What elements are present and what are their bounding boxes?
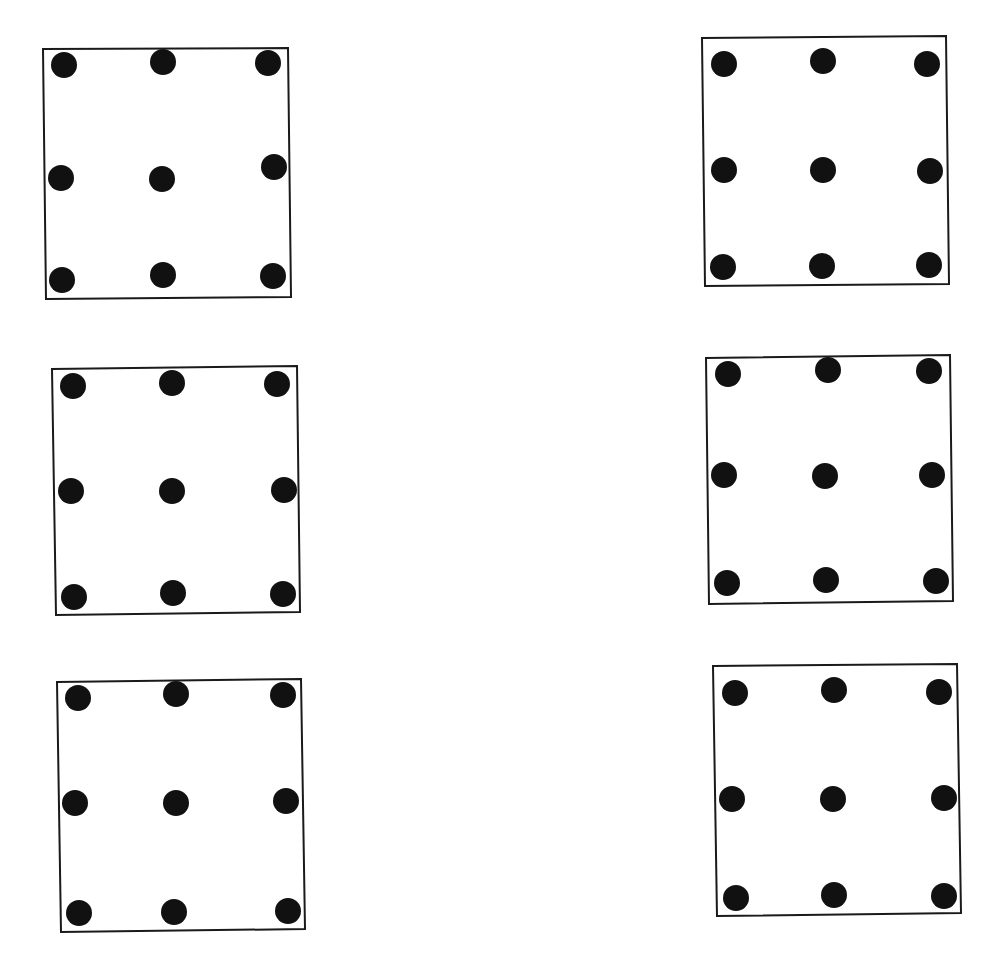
dot-2-2 — [820, 786, 846, 812]
dot-1-2 — [821, 677, 847, 703]
dot-1-2 — [810, 48, 836, 74]
dot-1-2 — [163, 681, 189, 707]
dot-1-2 — [815, 357, 841, 383]
dot-3-2 — [813, 567, 839, 593]
dot-1-3 — [926, 679, 952, 705]
dot-2-1 — [62, 790, 88, 816]
dot-1-3 — [270, 682, 296, 708]
dot-2-3 — [917, 158, 943, 184]
dot-3-1 — [49, 267, 75, 293]
dot-3-3 — [931, 883, 957, 909]
dot-2-3 — [931, 785, 957, 811]
dot-2-2 — [810, 157, 836, 183]
dot-2-1 — [711, 462, 737, 488]
dot-3-3 — [275, 898, 301, 924]
dot-panel-5 — [57, 679, 305, 932]
dot-1-3 — [264, 371, 290, 397]
dot-panel-4 — [706, 355, 953, 604]
dot-1-1 — [51, 52, 77, 78]
dot-1-2 — [150, 49, 176, 75]
dot-1-3 — [916, 358, 942, 384]
dot-3-1 — [66, 900, 92, 926]
dot-3-1 — [723, 885, 749, 911]
dot-1-1 — [60, 373, 86, 399]
dot-2-3 — [273, 788, 299, 814]
dot-3-1 — [61, 584, 87, 610]
dot-3-2 — [809, 253, 835, 279]
dot-3-2 — [161, 899, 187, 925]
dot-2-2 — [159, 478, 185, 504]
dot-2-1 — [711, 157, 737, 183]
dot-2-2 — [163, 790, 189, 816]
dot-2-2 — [812, 463, 838, 489]
dot-1-1 — [722, 680, 748, 706]
dot-panel-3 — [52, 366, 300, 615]
dot-3-1 — [710, 254, 736, 280]
dot-1-1 — [715, 361, 741, 387]
dot-3-3 — [923, 568, 949, 594]
dot-3-3 — [270, 581, 296, 607]
dot-3-3 — [916, 252, 942, 278]
dot-1-3 — [914, 51, 940, 77]
dot-3-3 — [260, 263, 286, 289]
dot-2-3 — [271, 477, 297, 503]
dot-3-2 — [150, 262, 176, 288]
dot-1-1 — [65, 685, 91, 711]
dot-3-2 — [160, 580, 186, 606]
dot-2-3 — [919, 462, 945, 488]
nine-dot-diagram — [0, 0, 995, 957]
dot-2-1 — [58, 478, 84, 504]
dot-panel-1 — [43, 48, 291, 299]
dot-2-1 — [719, 786, 745, 812]
dot-panel-6 — [713, 664, 961, 916]
dot-2-3 — [261, 154, 287, 180]
dot-panel-2 — [702, 36, 949, 286]
dot-3-2 — [821, 882, 847, 908]
dot-2-1 — [48, 165, 74, 191]
dot-3-1 — [714, 570, 740, 596]
dot-1-2 — [159, 370, 185, 396]
dot-2-2 — [149, 166, 175, 192]
dot-1-3 — [255, 50, 281, 76]
dot-1-1 — [711, 51, 737, 77]
